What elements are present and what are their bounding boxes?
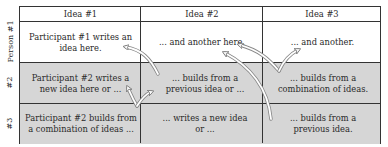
row-label-text: #2 bbox=[5, 77, 14, 89]
brainwriting-grid: Idea #1 Idea #2 Idea #3 Participant #1 w… bbox=[19, 6, 381, 144]
row-label-text: #3 bbox=[5, 118, 14, 130]
row-divider-1 bbox=[20, 62, 380, 63]
column-header-1: Idea #1 bbox=[20, 7, 141, 22]
cell-r3-c2: ... writes a new idea or ... bbox=[160, 104, 250, 144]
cell-r2-c1: Participant #2 writes a new idea here or… bbox=[26, 63, 135, 104]
cell-r2-c3: ... builds from a combination of ideas. bbox=[270, 63, 376, 104]
row-label-text: Person #1 bbox=[5, 21, 14, 63]
column-divider-1 bbox=[140, 7, 141, 143]
cell-r2-c2: ... builds from a previous idea or ... bbox=[160, 63, 250, 104]
header-divider bbox=[20, 21, 380, 22]
column-header-3: Idea #3 bbox=[263, 7, 381, 22]
row-label-3: #3 bbox=[0, 103, 19, 144]
row-divider-2 bbox=[20, 103, 380, 104]
cell-r3-c1: Participant #2 builds from a combination… bbox=[22, 104, 140, 144]
column-header-2: Idea #2 bbox=[141, 7, 263, 22]
row-label-1: Person #1 bbox=[0, 21, 19, 62]
cell-r3-c3: ... builds from a previous idea. bbox=[282, 104, 364, 144]
cell-r1-c1: Participant #1 writes an idea here. bbox=[28, 22, 133, 63]
column-divider-2 bbox=[262, 7, 263, 143]
cell-r1-c3: ... and another. bbox=[275, 22, 370, 63]
cell-r1-c2: ... and another here. bbox=[149, 22, 255, 63]
row-label-2: #2 bbox=[0, 62, 19, 103]
